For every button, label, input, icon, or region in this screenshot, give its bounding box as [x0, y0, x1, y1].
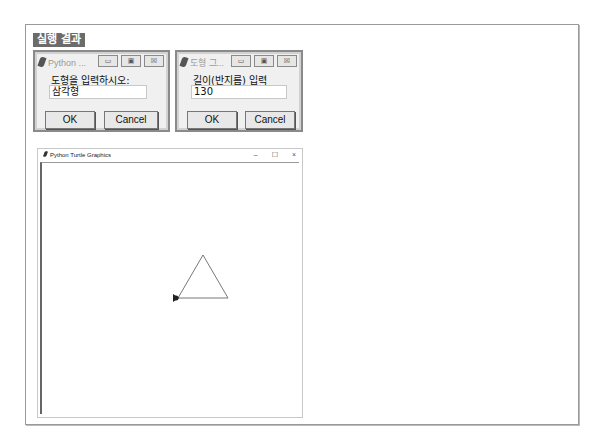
length-input-dialog: 도형 그... ▭ ▣ ☒ 길이(반지름) 입력 130 OK Cancel [175, 50, 303, 132]
feather-icon [179, 56, 188, 67]
dialog-title: 도형 그... [190, 58, 224, 68]
maximize-button[interactable]: ▣ [254, 55, 274, 67]
turtle-canvas[interactable] [40, 162, 299, 414]
cancel-button[interactable]: Cancel [104, 111, 158, 129]
section-label: 실행 결과 [33, 33, 85, 47]
dialog-title: Python ... [48, 58, 86, 68]
turtle-graphics-window: Python Turtle Graphics – ☐ × [37, 148, 303, 418]
dialog-titlebar: 도형 그... ▭ ▣ ☒ [181, 55, 297, 71]
dialog-titlebar: Python ... ▭ ▣ ☒ [39, 55, 164, 71]
maximize-button[interactable]: ▣ [121, 55, 141, 67]
shape-input-dialog: Python ... ▭ ▣ ☒ 도형을 입력하시오: 삼각형 OK Cance… [33, 50, 170, 132]
feather-icon [43, 151, 48, 158]
feather-icon [37, 56, 46, 67]
cancel-button[interactable]: Cancel [245, 111, 295, 129]
close-button[interactable]: ☒ [144, 55, 164, 67]
shape-input[interactable]: 삼각형 [49, 85, 147, 99]
minimize-button[interactable]: ▭ [98, 55, 118, 67]
close-button[interactable]: × [292, 149, 296, 161]
minimize-button[interactable]: ▭ [231, 55, 251, 67]
window-title: Python Turtle Graphics [50, 152, 111, 158]
close-button[interactable]: ☒ [277, 55, 297, 67]
ok-button[interactable]: OK [45, 111, 95, 129]
length-input[interactable]: 130 [191, 85, 287, 99]
minimize-button[interactable]: – [254, 149, 258, 161]
ok-button[interactable]: OK [187, 111, 237, 129]
triangle-drawing [42, 163, 301, 416]
maximize-button[interactable]: ☐ [272, 149, 278, 161]
